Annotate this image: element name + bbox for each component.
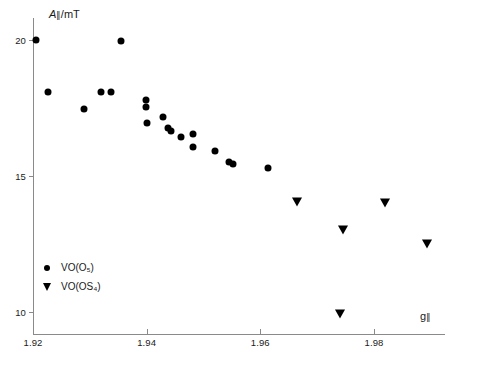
x-axis-line [33, 334, 445, 335]
data-point-series-0 [177, 133, 184, 140]
x-tick [147, 329, 148, 334]
x-tick [33, 329, 34, 334]
data-point-series-0 [143, 103, 150, 110]
legend: VO(O₅)VO(OS₄) [40, 258, 101, 296]
legend-item-0: VO(O₅) [40, 258, 101, 277]
data-point-series-0 [143, 119, 150, 126]
data-point-series-1 [338, 226, 348, 235]
legend-label: VO(O₅) [61, 262, 94, 273]
data-point-series-0 [80, 106, 87, 113]
data-point-series-0 [32, 36, 39, 43]
data-point-series-0 [168, 128, 175, 135]
x-tick [260, 329, 261, 334]
x-tick [374, 329, 375, 334]
x-axis-title: g∥ [420, 310, 431, 322]
data-point-series-0 [189, 130, 196, 137]
scatter-plot: g∥ A∥/mT 1.921.941.961.98201510 VO(O₅)VO… [0, 0, 479, 365]
triangle-down-marker-icon [40, 283, 54, 291]
x-tick-label: 1.94 [137, 337, 156, 348]
data-point-series-1 [422, 240, 432, 249]
y-tick-label: 10 [15, 307, 26, 318]
data-point-series-0 [230, 160, 237, 167]
y-tick-label: 15 [15, 171, 26, 182]
x-tick-label: 1.92 [24, 337, 43, 348]
y-tick-label: 20 [15, 34, 26, 45]
data-point-series-0 [118, 38, 125, 45]
legend-item-1: VO(OS₄) [40, 277, 101, 296]
y-tick [29, 312, 34, 313]
x-tick-label: 1.98 [365, 337, 384, 348]
data-point-series-0 [45, 88, 52, 95]
circle-marker-icon [40, 265, 54, 271]
data-point-series-1 [335, 309, 345, 318]
data-point-series-0 [189, 144, 196, 151]
x-tick-label: 1.96 [251, 337, 270, 348]
legend-label: VO(OS₄) [61, 281, 101, 292]
data-point-series-0 [108, 88, 115, 95]
data-point-series-1 [380, 199, 390, 208]
data-point-series-0 [265, 164, 272, 171]
data-point-series-0 [211, 148, 218, 155]
data-point-series-0 [159, 114, 166, 121]
y-tick [29, 176, 34, 177]
data-point-series-1 [292, 197, 302, 206]
data-point-series-0 [97, 88, 104, 95]
y-axis-title: A∥/mT [49, 8, 80, 20]
